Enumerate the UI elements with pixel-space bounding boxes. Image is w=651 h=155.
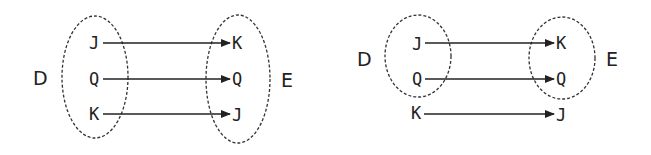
diagram-1: D J Q K K Q J E xyxy=(33,15,293,143)
domain-element: J xyxy=(89,33,99,53)
codomain-element: Q xyxy=(556,69,566,89)
diagram-2: D J Q K K Q J E xyxy=(357,15,618,125)
outside-codomain-element: J xyxy=(556,105,566,125)
domain-element: Q xyxy=(89,69,99,89)
domain-label: D xyxy=(357,48,372,70)
codomain-element: Q xyxy=(232,69,242,89)
outside-domain-element: K xyxy=(411,103,422,123)
codomain-label: E xyxy=(281,69,293,91)
codomain-element: K xyxy=(232,33,243,53)
domain-label: D xyxy=(33,67,48,89)
domain-element: Q xyxy=(412,69,422,89)
codomain-label: E xyxy=(606,48,618,70)
codomain-element: K xyxy=(556,33,567,53)
domain-element: K xyxy=(89,104,100,124)
domain-element: J xyxy=(412,34,422,54)
mapping-diagrams: D J Q K K Q J E D J Q K K Q J E xyxy=(0,0,651,155)
codomain-element: J xyxy=(232,105,242,125)
